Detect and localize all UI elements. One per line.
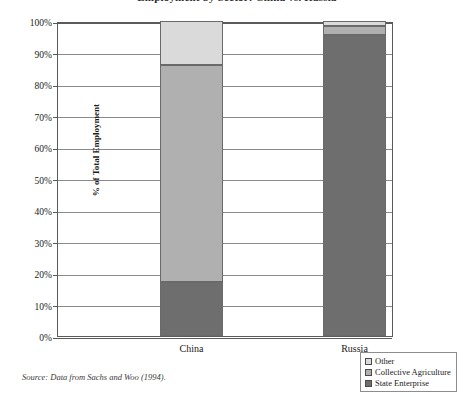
y-tick-mark <box>53 149 58 150</box>
figure-title: Employment by Sector: China vs. Russia <box>0 0 474 3</box>
x-tick-label-china: China <box>180 343 204 354</box>
legend-swatch-other <box>365 358 372 365</box>
y-tick-label: 10% <box>35 302 52 312</box>
y-tick-mark <box>53 275 58 276</box>
plot-area: 100%90%80%70%60%50%40%30%20%10%0% % of T… <box>57 22 393 337</box>
y-tick-mark <box>53 306 58 307</box>
source-note: Source: Data from Sachs and Woo (1994). <box>22 372 166 382</box>
y-tick-label: 100% <box>30 18 52 28</box>
y-tick-label: 80% <box>35 81 52 91</box>
y-tick-mark <box>53 212 58 213</box>
y-tick-label: 60% <box>35 144 52 154</box>
bar-russia[interactable] <box>323 21 386 336</box>
legend-swatch-state-enterprise <box>365 380 372 387</box>
gridline <box>58 338 392 339</box>
bar-china[interactable] <box>160 21 223 336</box>
bar-segment-collective-agriculture[interactable] <box>160 65 223 282</box>
legend-label-other: Other <box>375 357 394 366</box>
y-tick-mark <box>53 54 58 55</box>
bar-segment-collective-agriculture[interactable] <box>323 26 386 35</box>
bar-segment-state-enterprise[interactable] <box>323 35 386 336</box>
y-tick-label: 30% <box>35 239 52 249</box>
legend-label-state-enterprise: State Enterprise <box>375 379 429 388</box>
y-tick-label: 20% <box>35 270 52 280</box>
y-tick-mark <box>53 338 58 339</box>
y-tick-label: 90% <box>35 50 52 60</box>
legend-item-collective-agriculture[interactable]: Collective Agriculture <box>365 367 451 377</box>
y-tick-mark <box>53 243 58 244</box>
legend-label-collective-agriculture: Collective Agriculture <box>375 368 451 377</box>
y-axis-title: % of Total Employment <box>91 60 101 240</box>
y-tick-mark <box>53 117 58 118</box>
y-tick-label: 50% <box>35 176 52 186</box>
legend-item-other[interactable]: Other <box>365 356 451 366</box>
bar-segment-other[interactable] <box>160 21 223 65</box>
bar-segment-other[interactable] <box>323 21 386 26</box>
legend-item-state-enterprise[interactable]: State Enterprise <box>365 378 451 388</box>
y-tick-label: 70% <box>35 113 52 123</box>
chart-legend: OtherCollective AgricultureState Enterpr… <box>360 352 457 392</box>
y-tick-label: 0% <box>39 333 52 343</box>
y-tick-mark <box>53 180 58 181</box>
bar-segment-state-enterprise[interactable] <box>160 282 223 336</box>
legend-swatch-collective-agriculture <box>365 369 372 376</box>
y-tick-label: 40% <box>35 207 52 217</box>
y-tick-mark <box>53 23 58 24</box>
y-tick-mark <box>53 86 58 87</box>
